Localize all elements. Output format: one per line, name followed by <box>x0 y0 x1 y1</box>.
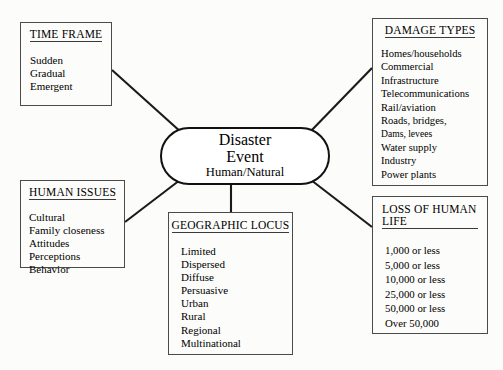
list-item: Power plants <box>381 168 487 181</box>
box-geographic-locus: GEOGRAPHIC LOCUS Limited Dispersed Diffu… <box>168 212 293 355</box>
list-item: Attitudes <box>29 237 124 250</box>
list-item: Persuasive <box>181 284 292 297</box>
connector-center-to-damage-types <box>309 68 372 133</box>
center-node-line1: Disaster <box>219 132 271 148</box>
list-item: Behavior <box>29 263 124 276</box>
list-item: Family closeness <box>29 224 124 237</box>
center-node-line2: Event <box>226 148 263 165</box>
list-item: Perceptions <box>29 250 124 263</box>
list-item: Industry <box>381 154 487 167</box>
list-item: Diffuse <box>181 271 292 284</box>
connector-center-to-time-frame <box>112 70 182 133</box>
list-item: Gradual <box>30 67 111 80</box>
box-human-issues-title: HUMAN ISSUES <box>21 186 124 200</box>
list-item: Regional <box>181 324 292 337</box>
box-time-frame: TIME FRAME Sudden Gradual Emergent <box>20 22 112 106</box>
box-damage-types-list: Homes/households Commercial Infrastructu… <box>381 47 487 181</box>
box-time-frame-list: Sudden Gradual Emergent <box>30 54 111 93</box>
list-item: Dams, levees <box>381 127 487 140</box>
box-damage-types: DAMAGE TYPES Homes/households Commercial… <box>372 18 488 186</box>
box-geographic-locus-list: Limited Dispersed Diffuse Persuasive Urb… <box>181 245 292 350</box>
box-loss-of-life-list: 1,000 or less 5,000 or less 10,000 or le… <box>385 243 487 331</box>
list-item: Homes/households <box>381 47 487 60</box>
box-damage-types-title: DAMAGE TYPES <box>373 24 487 38</box>
box-human-issues-list: Cultural Family closeness Attitudes Perc… <box>29 211 124 276</box>
list-item: Water supply <box>381 141 487 154</box>
list-item: Rural <box>181 310 292 323</box>
list-item: 1,000 or less <box>385 243 487 258</box>
connector-center-to-loss-of-life <box>311 180 372 227</box>
list-item: Cultural <box>29 211 124 224</box>
list-item: Dispersed <box>181 258 292 271</box>
box-loss-of-life-title-line2: LIFE <box>382 215 478 229</box>
list-item: 50,000 or less <box>385 301 487 316</box>
box-time-frame-title: TIME FRAME <box>21 28 111 42</box>
list-item: Rail/aviation <box>381 101 487 114</box>
list-item: Infrastructure <box>381 74 487 87</box>
list-item: Limited <box>181 245 292 258</box>
list-item: Multinational <box>181 337 292 350</box>
list-item: 25,000 or less <box>385 287 487 302</box>
list-item: Urban <box>181 297 292 310</box>
box-human-issues: HUMAN ISSUES Cultural Family closeness A… <box>20 180 125 268</box>
box-loss-of-life-title-line1: LOSS OF HUMAN <box>382 203 478 215</box>
center-node-disaster-event: Disaster Event Human/Natural <box>160 127 330 185</box>
list-item: Telecommunications <box>381 87 487 100</box>
list-item: 5,000 or less <box>385 258 487 273</box>
box-loss-of-life: LOSS OF HUMAN LIFE 1,000 or less 5,000 o… <box>372 196 488 334</box>
list-item: Commercial <box>381 60 487 73</box>
list-item: Over 50,000 <box>385 316 487 331</box>
diagram-canvas: TIME FRAME Sudden Gradual Emergent DAMAG… <box>0 0 503 370</box>
center-node-line3: Human/Natural <box>206 165 284 180</box>
list-item: Emergent <box>30 80 111 93</box>
list-item: Roads, bridges, <box>381 114 487 127</box>
box-geographic-locus-title: GEOGRAPHIC LOCUS <box>169 219 292 233</box>
box-loss-of-life-title: LOSS OF HUMAN LIFE <box>382 203 478 229</box>
list-item: 10,000 or less <box>385 272 487 287</box>
list-item: Sudden <box>30 54 111 67</box>
